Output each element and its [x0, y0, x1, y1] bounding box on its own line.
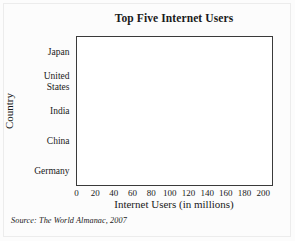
- x-axis-tick-labels: 020406080100120140160180200: [74, 188, 270, 198]
- x-tick-label: 20: [91, 188, 101, 198]
- x-tick-label: 160: [219, 188, 233, 198]
- x-axis-title: Internet Users (in millions): [70, 198, 278, 210]
- plot-frame: [77, 37, 273, 186]
- category-label: India: [50, 106, 70, 116]
- y-axis-title: Country: [3, 81, 15, 141]
- category-label: Japan: [48, 47, 70, 57]
- x-tick-label: 200: [256, 188, 270, 198]
- category-label: China: [47, 136, 70, 146]
- category-label: Germany: [34, 166, 70, 176]
- x-tick-label: 140: [200, 188, 214, 198]
- x-tick-label: 100: [163, 188, 177, 198]
- x-tick-label: 0: [74, 188, 79, 198]
- x-tick-label: 80: [147, 188, 157, 198]
- y-axis-category-labels: JapanUnitedStatesIndiaChinaGermany: [34, 47, 70, 176]
- x-tick-label: 60: [128, 188, 138, 198]
- category-label: UnitedStates: [44, 71, 70, 92]
- figure-page: Top Five Internet Users 0204060801001201…: [0, 0, 295, 241]
- source-note: Source: The World Almanac, 2007: [11, 216, 127, 225]
- x-tick-label: 40: [109, 188, 119, 198]
- bar-chart-figure: Top Five Internet Users 0204060801001201…: [0, 0, 295, 241]
- x-tick-label: 120: [182, 188, 196, 198]
- x-tick-label: 180: [238, 188, 252, 198]
